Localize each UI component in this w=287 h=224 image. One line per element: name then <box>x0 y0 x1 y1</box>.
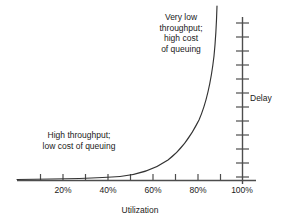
annotation-very-low-throughput: Very low throughput; high cost of queuin… <box>150 12 212 54</box>
annotation-high-throughput-line-2: low cost of queuing <box>17 141 141 152</box>
x-tick-label-20: 20% <box>46 185 80 195</box>
queuing-delay-chart: 20% 40% 60% 80% 100% Utilization Delay H… <box>0 0 287 224</box>
annotation-very-low-throughput-line-2: throughput; <box>150 23 212 34</box>
x-tick-label-40: 40% <box>91 185 125 195</box>
x-tick-label-60: 60% <box>136 185 170 195</box>
annotation-high-throughput-line-1: High throughput; <box>17 130 141 141</box>
annotation-very-low-throughput-line-1: Very low <box>150 12 212 23</box>
annotation-very-low-throughput-line-4: of queuing <box>150 44 212 55</box>
x-tick-label-80: 80% <box>181 185 215 195</box>
annotation-very-low-throughput-line-3: high cost <box>150 33 212 44</box>
x-axis-title: Utilization <box>103 205 177 215</box>
x-tick-label-100: 100% <box>225 185 259 195</box>
annotation-high-throughput: High throughput; low cost of queuing <box>17 130 141 151</box>
y-axis-title: Delay <box>250 93 272 103</box>
